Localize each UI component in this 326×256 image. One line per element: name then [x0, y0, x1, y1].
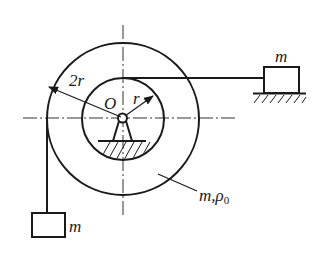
wheel-mass-label: m,ρ0 — [199, 187, 229, 206]
center-label: O — [104, 95, 116, 112]
inner-radius-label: r — [133, 90, 140, 107]
hanging-block-label: m — [69, 218, 81, 235]
outer-radius-label: 2r — [69, 72, 84, 89]
diagram-canvas — [0, 0, 326, 256]
sliding-block — [264, 67, 299, 93]
block-ground — [253, 94, 306, 104]
hanging-block — [32, 213, 65, 237]
wheel-mass-subscript: 0 — [224, 194, 230, 206]
pulley-diagram: 2r O r m m m,ρ0 — [0, 0, 326, 256]
sliding-block-label: m — [275, 48, 287, 65]
wheel-mass-text: m,ρ — [199, 186, 224, 205]
